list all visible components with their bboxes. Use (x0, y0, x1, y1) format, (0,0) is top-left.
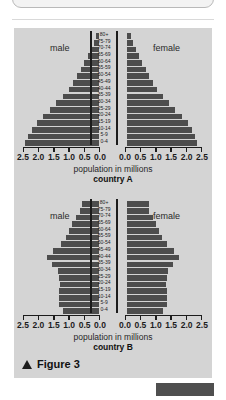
male-label-b: male (50, 211, 70, 221)
pyramid-bar (127, 107, 175, 113)
pyramid-bar (127, 221, 156, 227)
age-band-label: 35-39 (92, 259, 117, 266)
table-row (23, 120, 99, 127)
pyramid-bar (127, 40, 133, 46)
table-row (127, 66, 203, 73)
age-band-label: 25-29 (92, 273, 117, 280)
table-row (23, 127, 99, 134)
age-band-label: 45-49 (92, 78, 117, 85)
pyramid-bar (127, 235, 162, 241)
pyramid-bar (127, 201, 149, 207)
table-row (23, 80, 99, 87)
age-band-label: 10-14 (92, 125, 117, 132)
table-row (23, 295, 99, 302)
table-row (127, 201, 203, 208)
x-tick-labels-right-b: 0.00.51.01.52.02.5 (119, 320, 208, 331)
table-row (127, 87, 203, 94)
table-row (127, 281, 203, 288)
table-row (23, 100, 99, 107)
table-row (127, 295, 203, 302)
table-row (23, 255, 99, 262)
table-row (23, 66, 99, 73)
female-axis-line-b (116, 199, 118, 313)
horizontal-rule (12, 19, 214, 20)
female-axis-line-a (116, 31, 118, 145)
table-row (127, 33, 203, 40)
age-band-label: 75-79 (92, 38, 117, 45)
pyramid-bar (127, 228, 159, 234)
age-band-label: 25-29 (92, 105, 117, 112)
pyramid-bar (127, 100, 169, 106)
table-row (127, 301, 203, 308)
pyramid-bar (127, 33, 131, 39)
figure-page: · · 80+75-7970-7465-6960-6455-5950-5445-… (0, 0, 226, 400)
age-band-label: 35-39 (92, 91, 117, 98)
table-row (127, 228, 203, 235)
pyramid-bar (127, 215, 153, 221)
age-band-label: 5-9 (92, 299, 117, 306)
table-row (127, 107, 203, 114)
up-triangle-icon (22, 360, 32, 369)
age-band-label: 40-44 (92, 85, 117, 92)
table-row (23, 261, 99, 268)
pyramid-bar (127, 248, 174, 254)
pyramid-bar (127, 262, 173, 268)
table-row (23, 133, 99, 140)
table-row (127, 241, 203, 248)
table-row (127, 100, 203, 107)
x-tick-label: 2.5 (192, 152, 212, 163)
age-band-label: 60-64 (92, 226, 117, 233)
pyramid-bar (127, 282, 166, 288)
chart-title-a: country A (14, 174, 212, 184)
table-row (127, 127, 203, 134)
age-band-label: 0-4 (92, 138, 117, 145)
table-row (23, 234, 99, 241)
age-band-labels-b: 80+75-7970-7465-6960-6455-5950-5445-4940… (92, 199, 117, 313)
table-row (23, 93, 99, 100)
table-row (127, 60, 203, 67)
pyramid-bar (127, 268, 168, 274)
female-label-b: female (153, 211, 180, 221)
table-row (127, 255, 203, 262)
age-band-label: 50-54 (92, 239, 117, 246)
table-row (127, 113, 203, 120)
table-row (23, 248, 99, 255)
table-row (127, 140, 203, 147)
table-row (127, 288, 203, 295)
age-band-label: 20-24 (92, 111, 117, 118)
table-row (127, 133, 203, 140)
pyramid-bar (127, 288, 167, 294)
table-row (23, 221, 99, 228)
chart-title-b: country B (14, 342, 212, 352)
x-tick-label: 0.0 (90, 152, 110, 163)
age-band-labels-a: 80+75-7970-7465-6960-6455-5950-5445-4940… (92, 31, 117, 145)
x-tick-labels-left-a: 2.52.01.51.00.50.0 (17, 152, 106, 163)
table-row (127, 53, 203, 60)
age-band-label: 5-9 (92, 131, 117, 138)
table-row (127, 234, 203, 241)
pyramid-bar (127, 120, 188, 126)
pyramid-bar (28, 134, 99, 140)
age-band-label: 45-49 (92, 246, 117, 253)
pyramid-bar (127, 67, 146, 73)
population-pyramid-country-a: 80+75-7970-7465-6960-6455-5950-5445-4940… (14, 31, 212, 186)
female-label-a: female (153, 43, 180, 53)
pyramid-bar (127, 87, 157, 93)
bottom-dark-block (156, 383, 214, 396)
table-row (23, 281, 99, 288)
table-row (127, 120, 203, 127)
pyramid-bar (127, 140, 197, 146)
table-row (23, 268, 99, 275)
top-cutoff-box: · · (12, 0, 214, 8)
table-row (127, 275, 203, 282)
pyramid-bar (127, 308, 163, 314)
pyramid-bar (127, 295, 167, 301)
age-band-label: 20-24 (92, 279, 117, 286)
x-axis-caption-b: population in millions (14, 332, 212, 342)
population-pyramid-country-b: 80+75-7970-7465-6960-6455-5950-5445-4940… (14, 199, 212, 354)
age-band-label: 50-54 (92, 71, 117, 78)
male-label-a: male (50, 43, 70, 53)
age-band-label: 15-19 (92, 286, 117, 293)
table-row (23, 140, 99, 147)
age-band-label: 70-74 (92, 212, 117, 219)
